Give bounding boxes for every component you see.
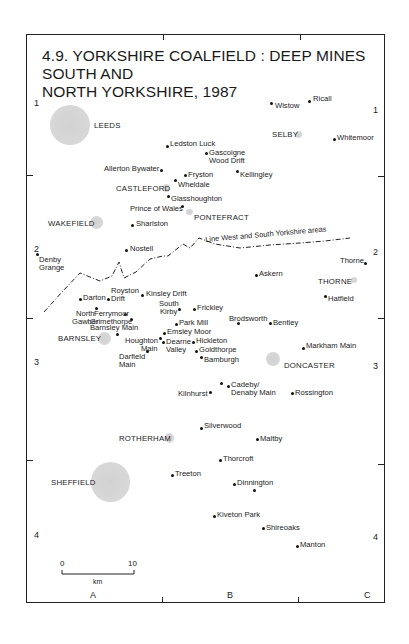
mine-label-sharlston: Sharlston — [136, 220, 168, 229]
mine-label-shireoaks: Shireoaks — [266, 524, 300, 533]
mine-label-markham-main: Markham Main — [306, 342, 356, 351]
city-symbol-pontefract — [186, 209, 193, 215]
mine-label-darfield-2: Main — [119, 361, 135, 370]
mine-label-cadeby-2: Denaby Main — [231, 389, 276, 398]
town-label-doncaster: DONCASTER — [284, 361, 335, 370]
city-symbol-doncaster — [266, 352, 280, 366]
mine-label-manton: Manton — [300, 541, 325, 550]
mine-label-bentley: Bentley — [273, 319, 298, 328]
mine-label-kiveton-park: Kiveton Park — [217, 511, 260, 520]
mine-label-goldthorpe: Goldthorpe — [199, 346, 237, 355]
mine-label-barnsley-main: Barnsley Main — [90, 324, 138, 333]
mine-label-wheldale: Wheldale — [178, 181, 210, 190]
scale-start: 0 — [60, 559, 64, 568]
mine-label-kilnhurst: Kilnhurst — [178, 390, 208, 399]
mine-label-kellingley: Kellingley — [240, 171, 273, 180]
mine-label-dearne-2: Valley — [166, 346, 186, 355]
scale-end: 10 — [128, 559, 137, 568]
mine-label-thorcroft: Thorcroft — [223, 455, 253, 464]
mine-label-allerton-bywater: Allerton Bywater — [104, 165, 159, 174]
mine-label-royston-2: Drift — [111, 295, 125, 304]
mine-label-whitemoor: Whitemoor — [337, 134, 374, 143]
mine-label-dinnington: Dinnington — [237, 479, 273, 488]
mine-label-glasshoughton: Glasshoughton — [171, 195, 222, 204]
town-label-rotherham: ROTHERHAM — [119, 434, 171, 443]
town-label-barnsley: BARNSLEY — [58, 334, 101, 343]
mine-label-thorne: Thorne — [340, 257, 364, 266]
mine-label-prince-of-wales: Prince of Wales — [130, 205, 183, 214]
mine-label-gascoigne-2: Wood Drift — [209, 157, 245, 166]
mine-label-ricall: Ricall — [313, 95, 332, 104]
city-symbol-sheffield — [91, 462, 130, 502]
town-label-castleford: CASTLEFORD — [116, 184, 170, 193]
mine-label-maltby: Maltby — [260, 435, 282, 444]
town-label-leeds: LEEDS — [94, 121, 121, 130]
mine-label-silverwood: Silverwood — [204, 422, 241, 431]
mine-label-darton: Darton — [83, 294, 106, 303]
mine-label-denby-2: Grange — [39, 264, 64, 273]
mine-label-south-kirby-2: Kirby — [160, 308, 177, 317]
town-label-selby: SELBY — [272, 130, 298, 139]
mine-label-fryston: Fryston — [188, 171, 213, 180]
mine-label-hatfield: Hatfield — [328, 295, 354, 304]
scale-bar — [62, 570, 134, 574]
mine-label-treeton: Treeton — [175, 470, 201, 479]
mine-label-rossington: Rossington — [295, 389, 333, 398]
mine-label-brodsworth: Brodsworth — [229, 315, 267, 324]
town-label-wakefield: WAKEFIELD — [48, 219, 95, 228]
city-symbol-leeds — [50, 105, 90, 145]
mine-label-askern: Askern — [259, 270, 283, 279]
scale-unit: km — [93, 578, 102, 585]
town-label-pontefract: PONTEFRACT — [194, 213, 249, 222]
town-label-thorne: THORNE — [318, 277, 352, 286]
mine-label-wistow: Wistow — [275, 102, 299, 111]
mine-label-frickley: Frickley — [197, 304, 223, 313]
mine-label-bamburgh: Bamburgh — [204, 356, 239, 365]
mine-label-kinsley: Kinsley Drift — [146, 290, 187, 299]
mine-label-nostell: Nostell — [130, 245, 153, 254]
town-label-sheffield: SHEFFIELD — [51, 478, 96, 487]
